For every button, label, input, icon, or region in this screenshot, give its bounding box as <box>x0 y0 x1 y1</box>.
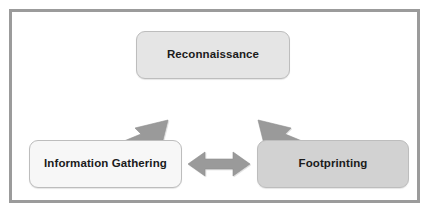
node-footprinting-label: Footprinting <box>299 158 368 170</box>
node-footprinting[interactable]: Footprinting <box>257 140 409 188</box>
node-reconnaissance-label: Reconnaissance <box>167 49 259 61</box>
node-information-gathering[interactable]: Information Gathering <box>29 140 182 188</box>
node-information-gathering-label: Information Gathering <box>44 158 167 170</box>
node-reconnaissance[interactable]: Reconnaissance <box>136 31 290 79</box>
diagram-screenshot: Reconnaissance Information Gathering Foo… <box>0 0 433 217</box>
